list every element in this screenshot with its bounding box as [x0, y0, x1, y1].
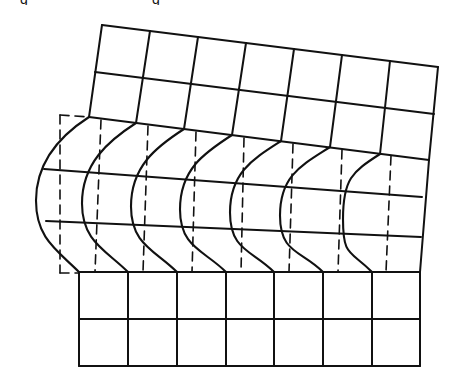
deformed-marker-curve: [36, 117, 89, 272]
grid-line-shear-top-boundary: [89, 117, 429, 160]
deformed-marker-curve: [180, 135, 232, 272]
caption-fragment: g: [152, 0, 160, 5]
grid-column-line: [89, 25, 102, 117]
original-position-dashed-line: [338, 150, 342, 272]
deformed-marker-curve: [131, 129, 184, 272]
deformed-marker-curve: [280, 147, 330, 272]
cropped-caption: g g: [0, 0, 458, 5]
deformed-marker-curve: [343, 154, 380, 272]
original-position-dashed-line: [386, 156, 391, 272]
original-position-dashed-line: [95, 120, 101, 272]
original-position-dashed-line: [241, 138, 244, 272]
dashed-frame-top: [60, 115, 89, 117]
lower-block-grid: [79, 272, 420, 366]
original-position-dashed-line: [192, 132, 196, 272]
diagram-canvas: [0, 0, 458, 389]
shear-zone-diagram: g g: [0, 0, 458, 389]
original-position-dashed-line: [289, 144, 293, 272]
grid-line-middle-line: [95, 72, 434, 114]
original-position-dashed-line: [143, 126, 148, 272]
shear-zone-right-edge: [420, 160, 429, 272]
caption-fragment: g: [20, 0, 28, 5]
grid-line-top-edge: [102, 25, 438, 67]
deformed-marker-curve: [82, 123, 136, 272]
upper-block-grid: [89, 25, 438, 160]
shear-zone: [36, 115, 429, 273]
deformed-marker-curve: [230, 141, 281, 272]
